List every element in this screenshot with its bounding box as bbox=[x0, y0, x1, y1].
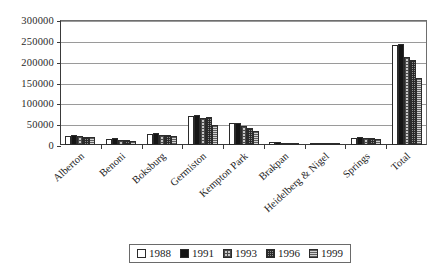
y-axis-tick-label: 150000 bbox=[21, 77, 54, 88]
chart-legend: 19881991199319961999 bbox=[129, 244, 351, 263]
bar-group bbox=[60, 20, 101, 145]
bar-group bbox=[264, 20, 305, 145]
bar-1999[interactable] bbox=[334, 143, 340, 146]
legend-swatch-icon bbox=[223, 249, 232, 258]
x-axis-tick-label: Total bbox=[389, 150, 412, 173]
bar-group bbox=[182, 20, 223, 145]
bar-1999[interactable] bbox=[212, 125, 218, 145]
x-axis-labels: AlbertonBenoniBoksburgGermistonKempton P… bbox=[60, 149, 427, 209]
legend-label: 1999 bbox=[321, 248, 343, 259]
legend-item-1988[interactable]: 1988 bbox=[137, 248, 171, 259]
legend-swatch-icon bbox=[309, 249, 318, 258]
y-axis-labels: 050000100000150000200000250000300000 bbox=[0, 20, 56, 145]
bar-1999[interactable] bbox=[375, 139, 381, 145]
bar-1999[interactable] bbox=[253, 131, 259, 145]
bar-group bbox=[101, 20, 142, 145]
x-axis-label-slot: Total bbox=[386, 149, 427, 209]
bar-1999[interactable] bbox=[416, 78, 422, 145]
y-axis-tick-label: 200000 bbox=[21, 56, 54, 67]
legend-item-1993[interactable]: 1993 bbox=[223, 248, 257, 259]
bar-group bbox=[142, 20, 183, 145]
bar-1999[interactable] bbox=[130, 141, 136, 145]
x-axis-tick-label: Alberton bbox=[51, 150, 86, 183]
legend-label: 1993 bbox=[235, 248, 257, 259]
x-axis-label-slot: Alberton bbox=[60, 149, 101, 209]
legend-swatch-icon bbox=[137, 249, 146, 258]
y-axis-tick-label: 300000 bbox=[21, 15, 54, 26]
x-axis-label-slot: Springs bbox=[345, 149, 386, 209]
legend-label: 1996 bbox=[278, 248, 300, 259]
bar-1999[interactable] bbox=[293, 143, 299, 145]
x-axis-label-slot: Heidelberg & Nigel bbox=[305, 149, 346, 209]
y-axis-tick bbox=[57, 146, 61, 147]
bar-group bbox=[386, 20, 427, 145]
y-axis-tick-label: 100000 bbox=[21, 98, 54, 109]
legend-item-1999[interactable]: 1999 bbox=[309, 248, 343, 259]
x-axis-label-slot: Kempton Park bbox=[223, 149, 264, 209]
x-axis-tick-label: Springs bbox=[341, 150, 372, 180]
legend-swatch-icon bbox=[266, 249, 275, 258]
bar-groups bbox=[60, 20, 427, 145]
bar-chart: 050000100000150000200000250000300000 Alb… bbox=[0, 0, 448, 277]
bar-1999[interactable] bbox=[171, 136, 177, 145]
bar-group bbox=[345, 20, 386, 145]
bar-group bbox=[305, 20, 346, 145]
legend-label: 1988 bbox=[149, 248, 171, 259]
legend-item-1996[interactable]: 1996 bbox=[266, 248, 300, 259]
y-axis-tick-label: 0 bbox=[49, 140, 54, 151]
bar-group bbox=[223, 20, 264, 145]
bar-1999[interactable] bbox=[89, 137, 95, 145]
legend-swatch-icon bbox=[180, 249, 189, 258]
x-axis-tick-label: Benoni bbox=[97, 150, 127, 178]
legend-label: 1991 bbox=[192, 248, 214, 259]
y-axis-tick-label: 50000 bbox=[27, 119, 54, 130]
legend-item-1991[interactable]: 1991 bbox=[180, 248, 214, 259]
y-axis-tick-label: 250000 bbox=[21, 35, 54, 46]
